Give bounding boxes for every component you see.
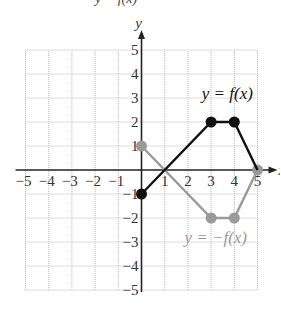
data-point-marker [229,213,240,224]
series-label: y = −f(x) [182,228,247,247]
data-point-marker [136,141,147,152]
y-tick-label: −3 [123,234,139,250]
y-tick-label: −4 [123,258,139,274]
y-tick-label: 5 [131,42,139,58]
y-tick-label: 3 [131,90,139,106]
x-axis-arrow-icon [269,167,278,174]
data-point-marker [206,213,217,224]
y-tick-label: −5 [123,282,139,298]
y-axis-label: y [133,15,142,31]
x-tick-label: 4 [231,173,239,189]
x-tick-label: −5 [16,173,32,189]
x-tick-label: −3 [62,173,78,189]
series-line [142,146,258,218]
x-tick-label: −4 [39,173,55,189]
data-point-marker [206,117,217,128]
function-graph: xy−5−4−3−2−112345−5−4−3−2−112345y = −f(x… [0,0,280,310]
x-axis-label: x [278,162,281,178]
x-tick-label: 2 [184,173,192,189]
data-point-marker [136,189,147,200]
y-tick-label: 2 [131,114,139,130]
data-point-marker [229,117,240,128]
x-tick-label: 1 [161,173,169,189]
series-line [142,122,258,194]
x-tick-label: 3 [207,173,215,189]
y-tick-label: −2 [123,210,139,226]
x-tick-label: −2 [85,173,101,189]
y-axis-arrow-icon [138,30,145,39]
y-tick-label: 4 [131,66,139,82]
series-label: y = f(x) [200,84,253,103]
